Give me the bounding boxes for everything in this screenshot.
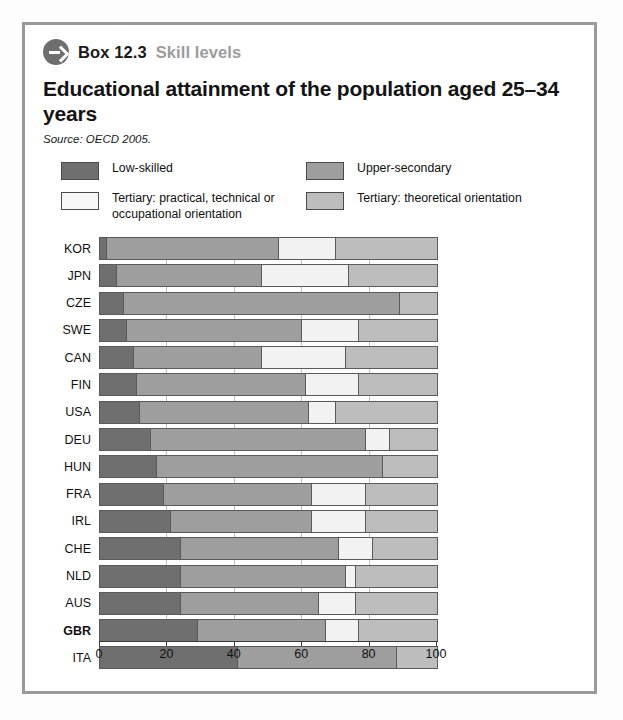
x-axis-tick-labels: 020406080100 <box>99 642 438 660</box>
stacked-bar-cze <box>99 292 438 315</box>
y-axis-label-usa: USA <box>45 405 99 419</box>
bar-segment-practical <box>311 484 366 505</box>
bar-segment-low <box>100 593 181 614</box>
chart-row: CAN <box>45 346 576 370</box>
x-axis-tick-label: 40 <box>227 647 241 661</box>
bar-segment-upper <box>180 593 319 614</box>
chart-row: GBR <box>45 619 576 643</box>
x-axis-tick-label: 60 <box>294 647 308 661</box>
bar-segment-practical <box>278 238 336 259</box>
chart-row: HUN <box>45 455 576 479</box>
stacked-bar-kor <box>99 237 438 260</box>
bar-segment-theor <box>358 620 437 641</box>
y-axis-label-hun: HUN <box>45 460 99 474</box>
bar-segment-practical <box>365 429 390 450</box>
chart-row: FIN <box>45 373 576 397</box>
bar-segment-upper <box>116 265 262 286</box>
stacked-bar-chart: KORJPNCZESWECANFINUSADEUHUNFRAIRLCHENLDA… <box>45 237 576 660</box>
box-header: Box 12.3 Skill levels <box>43 39 576 65</box>
chart-row: IRL <box>45 509 576 533</box>
box-subtitle: Skill levels <box>156 43 242 62</box>
y-axis-label-kor: KOR <box>45 242 99 256</box>
bar-segment-theor <box>335 402 437 423</box>
x-axis-tick-label: 80 <box>362 647 376 661</box>
y-axis-label-fra: FRA <box>45 487 99 501</box>
bar-segment-theor <box>389 429 437 450</box>
y-axis-label-swe: SWE <box>45 323 99 337</box>
bar-segment-upper <box>180 566 346 587</box>
legend-item-tertiary-practical: Tertiary: practical, technical or occupa… <box>61 191 306 223</box>
legend-row-2: Tertiary: practical, technical or occupa… <box>61 191 576 223</box>
legend-swatch-upper-secondary <box>306 162 344 180</box>
bar-segment-upper <box>163 484 312 505</box>
bar-segment-theor <box>355 566 437 587</box>
box-number: Box 12.3 <box>78 43 147 62</box>
chart-row: USA <box>45 400 576 424</box>
bar-segment-theor <box>335 238 437 259</box>
stacked-bar-aus <box>99 592 438 615</box>
bar-segment-theor <box>358 320 437 341</box>
stacked-bar-jpn <box>99 264 438 287</box>
legend-row-1: Low-skilled Upper-secondary <box>61 161 576 180</box>
stacked-bar-usa <box>99 401 438 424</box>
bar-segment-low <box>100 456 157 477</box>
bar-segment-theor <box>372 538 437 559</box>
stacked-bar-hun <box>99 455 438 478</box>
bar-segment-low <box>100 374 137 395</box>
bar-segment-theor <box>365 511 437 532</box>
bar-segment-theor <box>358 374 437 395</box>
bar-segment-theor <box>348 265 437 286</box>
bar-segment-practical <box>305 374 360 395</box>
y-axis-label-nld: NLD <box>45 569 99 583</box>
legend-item-low-skilled: Low-skilled <box>61 161 306 180</box>
arrow-right-circle-icon <box>43 39 69 65</box>
bar-segment-upper <box>150 429 367 450</box>
stacked-bar-che <box>99 537 438 560</box>
bar-segment-low <box>100 538 181 559</box>
bar-segment-practical <box>301 320 359 341</box>
box-panel: Box 12.3 Skill levels Educational attain… <box>22 22 597 694</box>
bar-segment-theor <box>382 456 437 477</box>
bar-segment-theor <box>355 593 437 614</box>
bar-segment-practical <box>261 265 350 286</box>
bar-segment-low <box>100 484 164 505</box>
legend-item-upper-secondary: Upper-secondary <box>306 161 451 180</box>
bar-segment-low <box>100 511 171 532</box>
bar-segment-low <box>100 293 124 314</box>
bar-segment-low <box>100 429 151 450</box>
y-axis-label-can: CAN <box>45 351 99 365</box>
bar-segment-upper <box>106 238 279 259</box>
legend-label-low-skilled: Low-skilled <box>112 161 173 177</box>
page-title: Educational attainment of the population… <box>43 77 563 127</box>
bar-segment-upper <box>170 511 313 532</box>
y-axis-label-deu: DEU <box>45 433 99 447</box>
bar-segment-upper <box>133 347 262 368</box>
bar-segment-practical <box>308 402 336 423</box>
legend-item-tertiary-theoretical: Tertiary: theoretical orientation <box>306 191 522 223</box>
chart-row: DEU <box>45 428 576 452</box>
bar-segment-upper <box>123 293 400 314</box>
legend-label-tertiary-practical: Tertiary: practical, technical or occupa… <box>112 191 306 223</box>
bar-segment-upper <box>139 402 309 423</box>
y-axis-label-che: CHE <box>45 542 99 556</box>
x-axis-tick-label: 0 <box>96 647 103 661</box>
bar-segment-low <box>100 566 181 587</box>
bar-segment-low <box>100 320 127 341</box>
source-note: Source: OECD 2005. <box>43 133 576 145</box>
bar-segment-upper <box>180 538 339 559</box>
stacked-bar-fin <box>99 373 438 396</box>
y-axis-label-aus: AUS <box>45 596 99 610</box>
y-axis-label-cze: CZE <box>45 296 99 310</box>
stacked-bar-deu <box>99 428 438 451</box>
bar-segment-upper <box>126 320 302 341</box>
bar-segment-practical <box>311 511 366 532</box>
x-axis-tick-label: 100 <box>426 647 447 661</box>
legend-swatch-low-skilled <box>61 162 99 180</box>
chart-row: CHE <box>45 537 576 561</box>
bar-segment-theor <box>345 347 437 368</box>
y-axis-label-gbr: GBR <box>45 624 99 638</box>
stacked-bar-irl <box>99 510 438 533</box>
bar-segment-practical <box>325 620 360 641</box>
bar-segment-upper <box>197 620 326 641</box>
stacked-bar-can <box>99 346 438 369</box>
